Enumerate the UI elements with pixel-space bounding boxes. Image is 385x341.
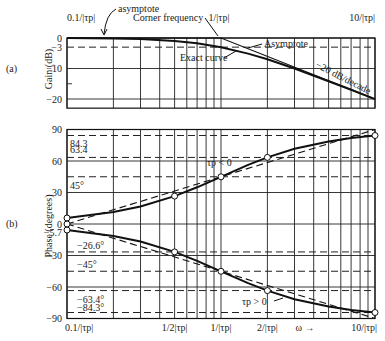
- exact-curve-annotation: Exact curve: [180, 52, 228, 63]
- marked-point: [372, 310, 378, 316]
- phase-y-tick-label: −90: [46, 313, 62, 324]
- marked-point: [172, 249, 178, 255]
- top-frequency-label: 0.1/|τp|: [67, 12, 95, 23]
- panel-label-a: (a): [6, 63, 17, 75]
- asymptote-annotation-right: Asymptote: [264, 38, 308, 49]
- phase-reference-value-label: −45°: [77, 259, 97, 270]
- tau-positive-annotation: τp > 0: [242, 296, 267, 307]
- marked-point: [264, 154, 270, 160]
- marked-point: [218, 268, 224, 274]
- bottom-frequency-label: 1/|τp|: [211, 322, 232, 333]
- corner-frequency-annotation: Corner frequency: [133, 12, 203, 23]
- top-frequency-label: 10/|τp|: [349, 12, 375, 23]
- marked-point: [218, 174, 224, 180]
- bottom-frequency-label: 1/2|τp|: [162, 322, 188, 333]
- text-labels: 0−3−10−209060300−30−60−90−5.784.363.445°…: [6, 3, 377, 333]
- top-frequency-label: 1/|τp|: [209, 12, 230, 23]
- gain-axis-title: Gain (dB): [43, 49, 55, 89]
- marked-point: [64, 227, 70, 233]
- marked-point: [372, 133, 378, 139]
- gain-y-tick-label: −20: [46, 94, 62, 105]
- bottom-frequency-label: 2/|τp|: [257, 322, 278, 333]
- marked-point: [264, 288, 270, 294]
- tau-negative-annotation: τp < 0: [207, 157, 232, 168]
- phase-y-tick-label: −60: [46, 282, 62, 293]
- bode-plot: 0−3−10−209060300−30−60−90−5.784.363.445°…: [0, 0, 385, 341]
- bottom-frequency-label: 0.1/|τp|: [65, 322, 93, 333]
- phase-reference-value-label: 45°: [70, 180, 84, 191]
- slope-annotation: −20 dB/decade: [314, 59, 373, 96]
- phase-y-tick-label: 90: [52, 124, 62, 135]
- asymptote-arrow: [104, 9, 116, 34]
- phase-reference-value-label: −26.6°: [77, 240, 104, 251]
- panel-label-b: (b): [6, 218, 18, 230]
- phase-axis-title: Phase (degrees): [43, 194, 55, 257]
- phase-reference-value-label: −84.3°: [77, 302, 104, 313]
- bottom-frequency-label: 10/|τp|: [351, 322, 377, 333]
- phase-reference-value-label: 63.4: [70, 144, 88, 155]
- omega-axis-label: ω →: [295, 322, 314, 333]
- tau-positive-arrow: [274, 298, 283, 301]
- marked-point-origin: [64, 221, 70, 227]
- marked-point: [172, 193, 178, 199]
- marked-point: [64, 215, 70, 221]
- phase-y-tick-label: 60: [52, 156, 62, 167]
